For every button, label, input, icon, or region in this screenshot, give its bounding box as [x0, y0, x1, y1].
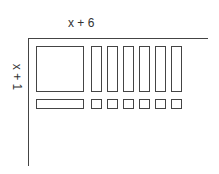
unit-square	[123, 99, 134, 109]
unit-square	[171, 99, 182, 109]
side-dimension-label: x + 1	[10, 62, 24, 92]
horizontal-axis	[28, 38, 208, 39]
x-squared-tile	[36, 46, 84, 92]
unit-square	[155, 99, 166, 109]
x-rod-vertical	[139, 46, 150, 92]
x-rod-vertical	[123, 46, 134, 92]
unit-square	[139, 99, 150, 109]
x-rod-horizontal	[36, 99, 84, 109]
x-rod-vertical	[91, 46, 102, 92]
top-dimension-label: x + 6	[68, 16, 94, 30]
vertical-axis	[28, 38, 29, 166]
unit-square	[107, 99, 118, 109]
x-rod-vertical	[155, 46, 166, 92]
unit-square	[91, 99, 102, 109]
x-rod-vertical	[107, 46, 118, 92]
x-rod-vertical	[171, 46, 182, 92]
